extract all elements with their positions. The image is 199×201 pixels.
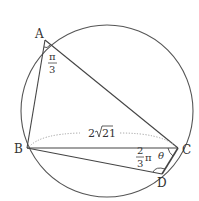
point-label-B: B (14, 142, 23, 156)
angle-A-denominator: 3 (49, 64, 55, 75)
geometry-diagram: A B C D π 3 2 21 2 3 π θ (0, 0, 199, 201)
segment-AB (27, 40, 45, 148)
side-BC-coefficient: 2 (88, 127, 95, 140)
angle-arc-C (168, 148, 173, 156)
point-label-C: C (182, 143, 191, 157)
circumcircle (21, 25, 193, 197)
angle-D-denominator: 3 (137, 158, 143, 169)
length-arc-BC (29, 133, 80, 147)
angle-A-numerator: π (49, 51, 56, 62)
side-BC-radicand: 21 (102, 127, 116, 140)
angle-C-theta: θ (158, 150, 164, 161)
angle-D-numerator: 2 (137, 145, 143, 156)
point-label-A: A (34, 27, 44, 41)
point-label-D: D (157, 176, 167, 190)
angle-D-pi: π (145, 152, 152, 163)
